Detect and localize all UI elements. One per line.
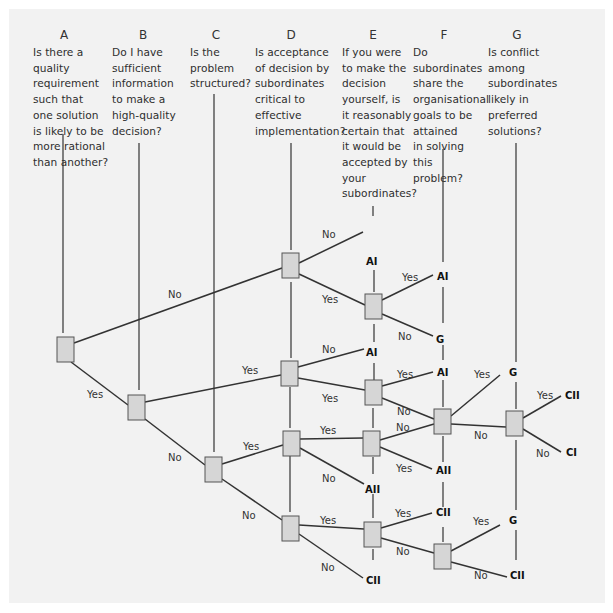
branch-label-no: No <box>396 546 410 557</box>
outcome-label-aii: AII <box>365 484 380 495</box>
branch-label-yes: Yes <box>473 369 490 380</box>
decision-node-b <box>128 395 145 420</box>
branch-label-yes: Yes <box>401 272 418 283</box>
branch-label-no: No <box>398 331 412 342</box>
outcome-label-cii: CII <box>565 390 580 401</box>
decision-node-d1 <box>282 253 299 278</box>
outcome-label-g: G <box>509 515 517 526</box>
outcome-label-ci: CI <box>566 447 577 458</box>
decision-node-e3 <box>363 431 380 456</box>
branch-label-no: No <box>322 473 336 484</box>
outcome-label-aii: AII <box>436 465 451 476</box>
branch-label-no: No <box>168 289 182 300</box>
decision-node-d4 <box>282 516 299 541</box>
branch-edge <box>451 525 500 551</box>
outcome-label-g: G <box>509 367 517 378</box>
outcome-label-cii: CII <box>510 570 525 581</box>
branch-label-yes: Yes <box>536 390 553 401</box>
decision-node-f2 <box>434 544 451 569</box>
outcome-label-ai: AI <box>437 367 448 378</box>
branch-label-no: No <box>322 344 336 355</box>
branch-label-yes: Yes <box>242 441 259 452</box>
decision-node-d2 <box>281 361 298 386</box>
outcome-label-cii: CII <box>436 507 451 518</box>
branch-label-yes: Yes <box>319 425 336 436</box>
branch-label-yes: Yes <box>395 463 412 474</box>
branch-label-no: No <box>397 406 411 417</box>
branch-label-no: No <box>474 570 488 581</box>
decision-node-g1 <box>506 411 523 436</box>
decision-node-c <box>205 457 222 482</box>
branch-label-no: No <box>536 448 550 459</box>
branch-edge <box>451 375 500 416</box>
branch-label-yes: Yes <box>86 389 103 400</box>
branch-edge <box>74 268 282 343</box>
outcome-label-ai: AI <box>437 271 448 282</box>
decision-node-e1 <box>365 294 382 319</box>
outcome-label-ai: AI <box>366 256 377 267</box>
branch-label-no: No <box>322 229 336 240</box>
branch-edge <box>298 378 365 390</box>
branch-label-yes: Yes <box>321 294 338 305</box>
outcome-label-ai: AI <box>366 347 377 358</box>
branch-label-yes: Yes <box>319 515 336 526</box>
outcome-label-g: G <box>436 334 444 345</box>
outcome-label-cii: CII <box>366 575 381 586</box>
branch-label-yes: Yes <box>472 516 489 527</box>
decision-node-f1 <box>434 409 451 434</box>
decision-node-d3 <box>283 431 300 456</box>
branch-label-no: No <box>168 452 182 463</box>
decision-tree: NoYesYesNoNoYesYesNoNoYesYesNoYesNoYesNo… <box>0 0 613 613</box>
branch-label-no: No <box>242 510 256 521</box>
branch-edge <box>145 375 281 402</box>
decision-node-e4 <box>364 522 381 547</box>
decision-node-a <box>57 337 74 362</box>
branch-edge <box>300 438 363 439</box>
decision-node-e2 <box>365 380 382 405</box>
branch-edge <box>451 424 506 427</box>
branch-label-no: No <box>396 422 410 433</box>
branch-label-yes: Yes <box>241 365 258 376</box>
branch-label-yes: Yes <box>394 508 411 519</box>
branch-label-no: No <box>474 430 488 441</box>
branch-label-yes: Yes <box>321 393 338 404</box>
branch-label-no: No <box>321 562 335 573</box>
branch-label-yes: Yes <box>396 369 413 380</box>
